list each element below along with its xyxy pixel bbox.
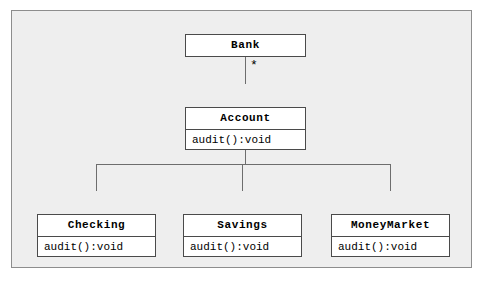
generalization-branch-bar bbox=[96, 164, 391, 165]
multiplicity-target-label: * bbox=[250, 60, 258, 71]
class-name-moneymarket: MoneyMarket bbox=[332, 215, 449, 236]
class-name-checking: Checking bbox=[38, 215, 155, 236]
generalization-drop-checking bbox=[96, 164, 97, 191]
class-box-account[interactable]: Account audit():void bbox=[185, 107, 306, 150]
generalization-drop-moneymarket bbox=[390, 164, 391, 191]
class-box-checking[interactable]: Checking audit():void bbox=[37, 214, 156, 257]
class-operation-checking: audit():void bbox=[38, 237, 155, 257]
class-operation-account: audit():void bbox=[186, 130, 305, 150]
class-operation-moneymarket: audit():void bbox=[332, 237, 449, 257]
diagram-canvas: 1 * Bank Account audit():void Checking a… bbox=[0, 0, 486, 285]
class-box-moneymarket[interactable]: MoneyMarket audit():void bbox=[331, 214, 450, 257]
class-box-bank[interactable]: Bank bbox=[185, 34, 306, 57]
class-box-savings[interactable]: Savings audit():void bbox=[183, 214, 302, 257]
class-name-account: Account bbox=[186, 108, 305, 129]
generalization-drop-savings bbox=[242, 164, 243, 191]
class-operation-savings: audit():void bbox=[184, 237, 301, 257]
class-name-bank: Bank bbox=[186, 35, 305, 56]
diagram-frame: 1 * Bank Account audit():void Checking a… bbox=[11, 10, 472, 268]
class-name-savings: Savings bbox=[184, 215, 301, 236]
